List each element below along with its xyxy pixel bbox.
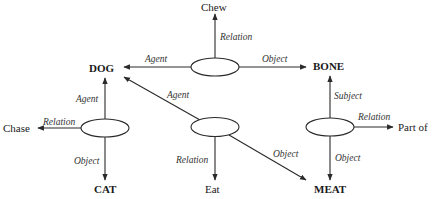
partof-relation-label: Relation: [357, 112, 390, 122]
chew-agent-label: Agent: [144, 54, 168, 64]
concept-meat: MEAT: [314, 183, 347, 195]
partof-node: [306, 118, 354, 136]
relation-eat: Eat: [205, 183, 220, 195]
partof-subject-label: Subject: [334, 91, 362, 101]
eat-proposition: Agent Relation Object: [124, 77, 306, 180]
relation-part-of: Part of: [398, 121, 428, 133]
chew-node: [191, 58, 239, 76]
partof-proposition: Subject Relation Object: [306, 76, 393, 180]
eat-node: [191, 118, 239, 137]
semantic-network-diagram: Agent Relation Object Agent Relation Obj…: [0, 0, 436, 199]
chase-node: [81, 119, 129, 137]
relation-chew: Chew: [201, 1, 227, 13]
relation-chase: Chase: [3, 122, 30, 134]
chase-object-label: Object: [74, 156, 100, 166]
chase-proposition: Agent Relation Object: [38, 78, 129, 180]
concept-dog: DOG: [89, 62, 115, 74]
chew-proposition: Agent Relation Object: [124, 14, 306, 76]
concept-bone: BONE: [313, 60, 344, 72]
eat-relation-label: Relation: [175, 155, 208, 165]
eat-object-label: Object: [273, 149, 299, 159]
concept-cat: CAT: [94, 183, 117, 195]
chew-object-label: Object: [262, 54, 288, 64]
chew-relation-label: Relation: [219, 32, 252, 42]
eat-agent-label: Agent: [166, 90, 190, 100]
chase-agent-label: Agent: [75, 94, 99, 104]
chase-relation-label: Relation: [42, 117, 75, 127]
partof-object-label: Object: [335, 153, 361, 163]
